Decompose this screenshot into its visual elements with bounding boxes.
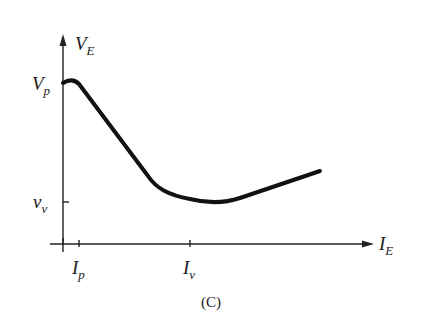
x-tick-label-ip: Ip — [71, 257, 85, 282]
y-axis-label: VE — [75, 33, 95, 58]
figure-caption: (C) — [201, 294, 221, 311]
ujt-characteristic-diagram: VE Vp vv Ip Iv IE (C) — [0, 0, 424, 332]
x-tick-label-iv: Iv — [182, 257, 195, 282]
y-axis-arrow-icon — [60, 34, 67, 46]
y-tick-label-vv: vv — [33, 191, 47, 216]
x-axis-label: IE — [378, 233, 393, 258]
y-tick-label-vp: Vp — [32, 73, 51, 98]
characteristic-curve — [63, 81, 320, 203]
x-axis-arrow-icon — [362, 241, 374, 248]
